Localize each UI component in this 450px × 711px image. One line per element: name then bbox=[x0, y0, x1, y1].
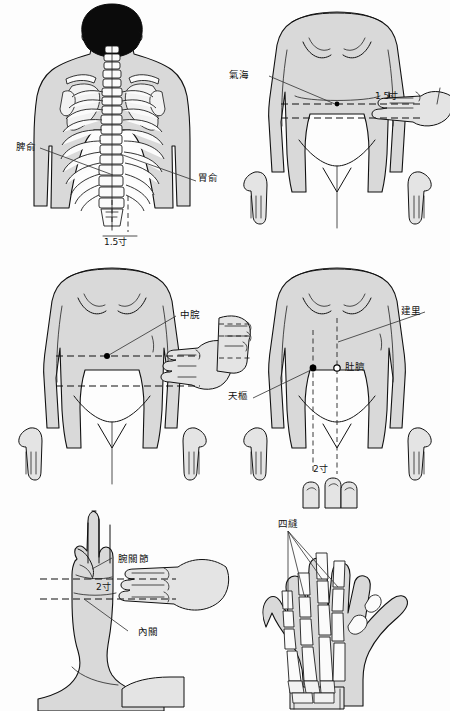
label-qihai-measure: 1.5寸 bbox=[375, 92, 398, 101]
label-qihai: 氣海 bbox=[229, 70, 250, 80]
label-jianli-measure: 2寸 bbox=[313, 465, 328, 474]
panel-jianli: 建里 天樞 肚臍 2寸 bbox=[225, 258, 450, 510]
sifeng-illustration bbox=[230, 505, 450, 711]
zhongwan-illustration bbox=[0, 258, 225, 508]
measuring-hand bbox=[119, 560, 229, 611]
qihai-illustration bbox=[225, 0, 450, 252]
label-neiguan: 內關 bbox=[138, 627, 159, 637]
two-finger-measure bbox=[303, 478, 357, 508]
neiguan-illustration bbox=[0, 505, 230, 711]
panel-back: 脾俞 胃俞 1.5寸 bbox=[0, 0, 225, 252]
point-qihai bbox=[335, 102, 340, 107]
label-weishu: 胃俞 bbox=[198, 173, 219, 183]
label-wrist-joint: 腕關節 bbox=[118, 554, 149, 564]
label-tianshu: 天樞 bbox=[228, 391, 249, 401]
panel-sifeng: 四縫 bbox=[230, 505, 450, 711]
label-pishu: 脾俞 bbox=[16, 142, 37, 152]
label-zhongwan: 中脘 bbox=[180, 310, 201, 320]
point-zhongwan bbox=[104, 353, 110, 359]
panel-neiguan: 腕關節 內關 2寸 bbox=[0, 505, 230, 711]
label-jianli: 建里 bbox=[401, 306, 422, 316]
jianli-illustration bbox=[225, 258, 450, 510]
label-neiguan-measure: 2寸 bbox=[96, 583, 111, 592]
spine-column bbox=[99, 46, 124, 226]
panel-zhongwan: 中脘 bbox=[0, 258, 225, 508]
measuring-hand-fragment bbox=[217, 316, 253, 373]
panel-qihai: 氣海 1.5寸 bbox=[225, 0, 450, 252]
figure-sheet: 脾俞 胃俞 1.5寸 bbox=[0, 0, 450, 711]
label-navel: 肚臍 bbox=[345, 362, 366, 372]
back-illustration bbox=[0, 0, 225, 252]
label-sifeng: 四縫 bbox=[278, 519, 299, 529]
point-navel bbox=[334, 365, 340, 371]
label-back-measure: 1.5寸 bbox=[104, 238, 127, 247]
